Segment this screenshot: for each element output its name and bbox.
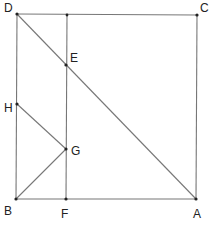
point-f — [64, 197, 67, 200]
point-g — [64, 147, 67, 150]
segments — [16, 14, 197, 199]
segment-vertical-through-e-g-f — [66, 15, 67, 199]
label-e: E — [70, 51, 78, 65]
label-f: F — [61, 207, 68, 221]
segment-bg — [16, 149, 66, 199]
labels: D C E H G B F A — [4, 1, 209, 221]
point-top-of-vertical — [66, 14, 69, 17]
label-g: G — [71, 144, 80, 158]
point-a — [194, 197, 197, 200]
segment-hg — [17, 104, 66, 149]
label-c: C — [200, 1, 209, 15]
segment-ca — [196, 15, 197, 199]
label-a: A — [193, 207, 201, 221]
point-d — [15, 12, 18, 15]
point-b — [14, 197, 17, 200]
label-b: B — [4, 204, 12, 218]
segment-bd — [16, 14, 17, 199]
point-e — [64, 63, 67, 66]
label-d: D — [4, 1, 13, 15]
label-h: H — [4, 101, 13, 115]
point-c — [195, 13, 198, 16]
point-h — [15, 102, 18, 105]
segment-dc — [17, 14, 197, 15]
geometry-diagram: D C E H G B F A — [0, 0, 211, 228]
